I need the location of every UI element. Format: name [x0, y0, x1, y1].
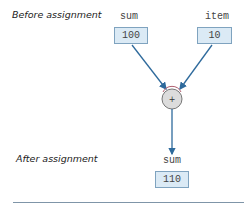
plus-operator-symbol: +: [169, 95, 176, 104]
arrow-item-to-plus: [180, 45, 212, 89]
bottom-divider: [13, 202, 244, 203]
flow-arrows: +: [0, 0, 244, 204]
after-assignment-label: After assignment: [16, 153, 98, 164]
result-sum-variable-name: sum: [152, 155, 192, 166]
result-sum-value-box: 110: [155, 171, 189, 188]
arrow-sum-to-plus: [132, 45, 166, 89]
